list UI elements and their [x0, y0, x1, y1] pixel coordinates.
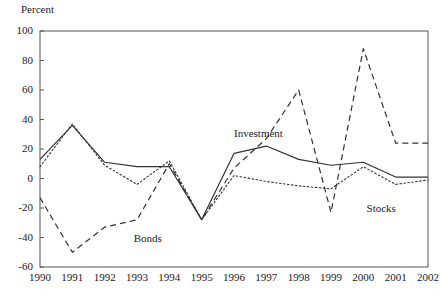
series-label-stocks: Stocks [367, 202, 396, 214]
y-tick-label: 40 [7, 113, 33, 125]
series-line-bonds [40, 49, 428, 253]
y-tick-label: -20 [7, 201, 33, 213]
y-tick-label: -40 [7, 231, 33, 243]
plot-area [0, 0, 444, 297]
x-tick-label: 2002 [408, 271, 444, 283]
series-label-bonds: Bonds [134, 232, 162, 244]
y-tick-label: 20 [7, 142, 33, 154]
series-label-investment: Investment [234, 127, 283, 139]
y-tick-label: 60 [7, 83, 33, 95]
y-tick-label: 100 [7, 24, 33, 36]
y-tick-label: 80 [7, 54, 33, 66]
chart-container: Percent -60-40-20020406080100 1990199119… [0, 0, 444, 297]
y-tick-label: 0 [7, 172, 33, 184]
